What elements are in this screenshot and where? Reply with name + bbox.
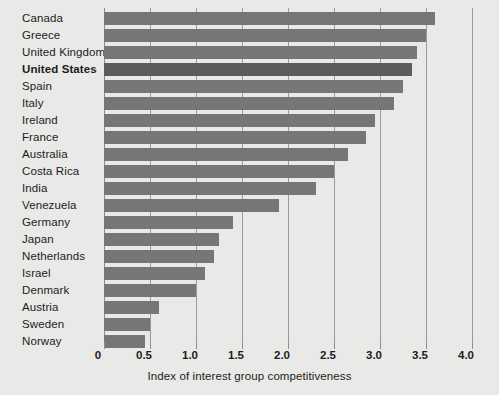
bar-italy <box>104 97 394 110</box>
tick-label-0.5: 0.5 <box>136 348 152 362</box>
tick-label-1.5: 1.5 <box>228 348 244 362</box>
category-labels: CanadaGreeceUnited KingdomUnited StatesS… <box>0 8 98 342</box>
bar-denmark <box>104 284 196 297</box>
bar-austria <box>104 301 159 314</box>
category-label-costa-rica: Costa Rica <box>0 165 92 178</box>
bar-germany <box>104 216 233 229</box>
bar-costa-rica <box>104 165 334 178</box>
tick-label-0: 0 <box>95 348 101 362</box>
category-label-netherlands: Netherlands <box>0 250 92 263</box>
category-label-spain: Spain <box>0 80 92 93</box>
tick-label-4.0: 4.0 <box>458 348 474 362</box>
bar-japan <box>104 233 219 246</box>
category-label-ireland: Ireland <box>0 114 92 127</box>
bar-united-kingdom <box>104 46 417 59</box>
tick-label-3.0: 3.0 <box>366 348 382 362</box>
x-axis-tick-labels: 00.51.01.52.02.53.03.54.0 <box>0 348 499 364</box>
bar-greece <box>104 29 426 42</box>
category-label-greece: Greece <box>0 29 92 42</box>
tick-label-2.0: 2.0 <box>274 348 290 362</box>
category-label-japan: Japan <box>0 233 92 246</box>
tick-label-3.5: 3.5 <box>412 348 428 362</box>
category-label-france: France <box>0 131 92 144</box>
tick-label-2.5: 2.5 <box>320 348 336 362</box>
category-label-united-states: United States <box>0 63 92 76</box>
bar-united-states <box>104 63 412 76</box>
category-label-venezuela: Venezuela <box>0 199 92 212</box>
bar-ireland <box>104 114 375 127</box>
bar-netherlands <box>104 250 214 263</box>
bar-chart: CanadaGreeceUnited KingdomUnited StatesS… <box>0 0 499 395</box>
bar-france <box>104 131 366 144</box>
category-label-germany: Germany <box>0 216 92 229</box>
x-axis-title: Index of interest group competitiveness <box>0 370 499 382</box>
category-label-australia: Australia <box>0 148 92 161</box>
category-label-israel: Israel <box>0 267 92 280</box>
category-label-canada: Canada <box>0 12 92 25</box>
category-label-united-kingdom: United Kingdom <box>0 46 92 59</box>
category-label-austria: Austria <box>0 301 92 314</box>
bar-canada <box>104 12 435 25</box>
category-label-india: India <box>0 182 92 195</box>
category-label-sweden: Sweden <box>0 318 92 331</box>
category-label-norway: Norway <box>0 335 92 348</box>
bars-layer <box>104 8 472 342</box>
category-label-italy: Italy <box>0 97 92 110</box>
bar-spain <box>104 80 403 93</box>
bar-india <box>104 182 316 195</box>
tick-label-1.0: 1.0 <box>182 348 198 362</box>
category-label-denmark: Denmark <box>0 284 92 297</box>
plot-area <box>104 8 472 342</box>
bar-sweden <box>104 318 150 331</box>
bar-venezuela <box>104 199 279 212</box>
bar-australia <box>104 148 348 161</box>
bar-israel <box>104 267 205 280</box>
gridline-4.0 <box>472 8 473 342</box>
